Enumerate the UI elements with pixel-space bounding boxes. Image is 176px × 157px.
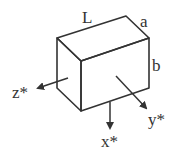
height-label: b xyxy=(152,56,161,75)
y-axis-arrow xyxy=(116,76,146,108)
block-diagram: L a b x* y* z* xyxy=(0,0,176,157)
length-label: L xyxy=(82,8,92,27)
width-label: a xyxy=(140,12,148,31)
z-axis-label: z* xyxy=(12,83,28,102)
x-axis-label: x* xyxy=(101,132,118,151)
y-axis-label: y* xyxy=(148,110,165,129)
side-face xyxy=(57,38,81,111)
axes xyxy=(38,76,146,128)
z-axis-arrow xyxy=(38,78,68,88)
